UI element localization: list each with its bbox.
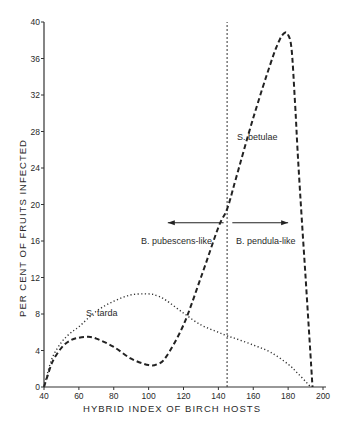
y-tick-label: 36 xyxy=(31,54,41,64)
y-tick-label: 16 xyxy=(31,236,41,246)
series-s-tarda xyxy=(44,294,311,387)
x-tick-label: 40 xyxy=(39,391,49,401)
x-tick-label: 120 xyxy=(176,391,190,401)
label-s-betulae: S. betulae xyxy=(237,132,278,142)
y-tick-label: 20 xyxy=(31,200,41,210)
x-tick-label: 60 xyxy=(74,391,84,401)
y-axis-title: PER CENT OF FRUITS INFECTED xyxy=(17,139,28,317)
label-b-pendula-like: B. pendula-like xyxy=(236,236,296,246)
y-tick-label: 32 xyxy=(31,90,41,100)
y-tick-label: 12 xyxy=(31,273,41,283)
series-s-betulae xyxy=(44,32,313,387)
label-b-pubescens-like: B. pubescens-like xyxy=(141,236,212,246)
x-tick-label: 180 xyxy=(281,391,295,401)
y-tick-label: 24 xyxy=(31,163,41,173)
y-tick-label: 8 xyxy=(35,309,40,319)
x-tick-label: 160 xyxy=(246,391,260,401)
x-tick-label: 80 xyxy=(109,391,119,401)
arrowhead-icon xyxy=(168,220,175,225)
arrowhead-icon xyxy=(281,220,288,225)
infection-chart: 4060801001201401601802000481216202428323… xyxy=(0,0,346,424)
x-tick-label: 100 xyxy=(142,391,156,401)
axes xyxy=(41,22,326,390)
x-tick-label: 140 xyxy=(211,391,225,401)
y-tick-label: 0 xyxy=(35,382,40,392)
tick-labels: 4060801001201401601802000481216202428323… xyxy=(31,17,331,401)
region-arrows xyxy=(168,220,288,225)
y-tick-label: 4 xyxy=(35,346,40,356)
y-tick-label: 28 xyxy=(31,127,41,137)
x-tick-label: 200 xyxy=(316,391,330,401)
x-axis-title: HYBRID INDEX OF BIRCH HOSTS xyxy=(83,403,261,414)
y-tick-label: 40 xyxy=(31,17,41,27)
label-s-tarda: S. tarda xyxy=(86,308,118,318)
